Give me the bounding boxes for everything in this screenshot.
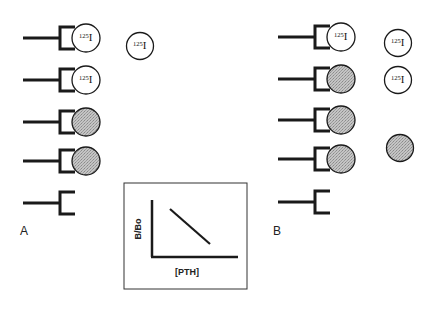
- binding-site-bracket: [60, 192, 75, 214]
- antibody-row-3: [23, 108, 100, 136]
- unlabeled-pth-circle: [327, 65, 355, 93]
- unlabeled-pth-circle: [72, 147, 100, 175]
- antibody-row-4: [23, 147, 100, 175]
- free-labeled-pth: 125I: [385, 67, 412, 94]
- antibody-row-1: 125I: [278, 23, 355, 51]
- free-labeled-pth: 125I: [127, 33, 154, 60]
- labeled-pth-circle: 125I: [72, 66, 100, 94]
- labeled-pth-circle: 125I: [327, 23, 355, 51]
- unlabeled-pth-circle: [327, 106, 355, 134]
- antibody-row-5: [23, 192, 75, 214]
- free-labeled-pth: 125I: [385, 30, 412, 57]
- panel-a-label: A: [20, 224, 28, 238]
- unlabeled-pth-circle: [327, 145, 355, 173]
- free-unlabeled-pth: [387, 135, 414, 162]
- antibody-row-5: [278, 191, 330, 213]
- antibody-row-3: [278, 106, 355, 134]
- panel-b-label: B: [273, 224, 281, 238]
- y-axis-label: B/Bo: [133, 218, 143, 239]
- panel-b: 125I125I125I: [278, 23, 414, 213]
- antibody-row-2: 125I: [23, 66, 100, 94]
- antibody-row-1: 125I: [23, 24, 100, 52]
- labeled-pth-circle: 125I: [72, 24, 100, 52]
- antibody-row-2: [278, 65, 355, 93]
- binding-site-bracket: [315, 191, 330, 213]
- antibody-row-4: [278, 145, 355, 173]
- unlabeled-pth-circle: [72, 108, 100, 136]
- competitive-binding-diagram: 125I125I125I 125I125I125I B/Bo [PTH]: [0, 0, 431, 311]
- inset-chart: B/Bo [PTH]: [124, 183, 247, 289]
- x-axis-label: [PTH]: [175, 267, 199, 277]
